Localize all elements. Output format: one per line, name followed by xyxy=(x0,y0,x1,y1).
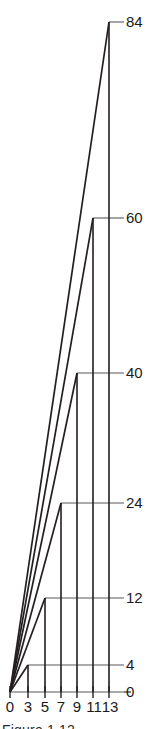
figure-caption: Figure 1.12 xyxy=(2,722,75,729)
x-tick-label-3: 3 xyxy=(24,699,32,714)
x-tick-label-5: 5 xyxy=(41,699,49,714)
leader-lines-group xyxy=(28,22,131,692)
y-tick-label-24: 24 xyxy=(126,495,143,510)
x-tick-label-7: 7 xyxy=(57,699,65,714)
y-tick-label-12: 12 xyxy=(126,590,143,605)
ray-to-point-13-84 xyxy=(10,22,109,692)
rays-group xyxy=(10,22,109,692)
y-tick-label-40: 40 xyxy=(126,365,143,380)
figure-container: 84 60 40 24 12 4 0 0 3 5 7 9 11 13 Figur… xyxy=(0,0,152,729)
x-tick-label-13: 13 xyxy=(102,699,119,714)
y-tick-label-0: 0 xyxy=(126,684,134,699)
y-tick-label-4: 4 xyxy=(126,657,134,672)
y-tick-label-84: 84 xyxy=(126,14,143,29)
ray-to-point-9-40 xyxy=(10,373,77,692)
x-tick-label-0: 0 xyxy=(6,699,14,714)
x-tick-label-9: 9 xyxy=(73,699,81,714)
y-tick-label-60: 60 xyxy=(126,210,143,225)
ray-to-point-11-60 xyxy=(10,218,93,692)
x-tick-label-11: 11 xyxy=(86,699,102,714)
